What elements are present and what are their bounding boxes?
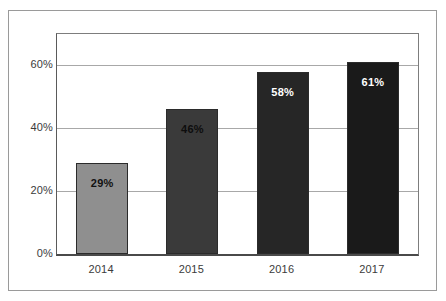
x-axis-tick-label-2017: 2017 <box>327 263 417 275</box>
bar-2017[interactable]: 61% <box>347 62 399 254</box>
bar-2014[interactable]: 29% <box>76 163 128 254</box>
x-axis-tick-label-2016: 2016 <box>237 263 327 275</box>
bar-value-label: 29% <box>77 177 127 189</box>
bar-value-label: 58% <box>258 86 308 98</box>
bar-2016[interactable]: 58% <box>257 72 309 254</box>
x-axis: 2014201520162017 <box>56 259 419 283</box>
x-axis-tick-label-2015: 2015 <box>146 263 236 275</box>
y-axis-tick-label: 40% <box>13 121 53 133</box>
y-axis-tick-label: 0% <box>13 247 53 259</box>
y-axis: 0%20%40%60% <box>9 33 53 256</box>
bar-2015[interactable]: 46% <box>166 109 218 254</box>
bar-value-label: 61% <box>348 76 398 88</box>
plot-area: 29%46%58%61% <box>56 33 419 256</box>
bar-chart-figure: 0%20%40%60% 29%46%58%61% 201420152016201… <box>8 10 437 291</box>
y-axis-tick-label: 60% <box>13 58 53 70</box>
x-axis-tick-label-2014: 2014 <box>56 263 146 275</box>
bar-value-label: 46% <box>167 123 217 135</box>
y-axis-tick-label: 20% <box>13 184 53 196</box>
